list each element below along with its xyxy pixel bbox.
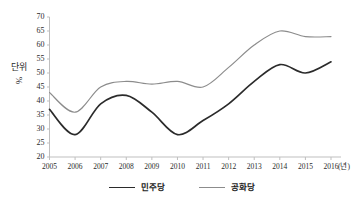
y-axis-tick-label: 70 [25, 13, 45, 21]
series-line-democratic [50, 62, 332, 135]
x-axis-tick-label: 2011 [190, 163, 216, 171]
legend-line-icon [199, 187, 225, 188]
x-axis-tick-label: 2014 [267, 163, 293, 171]
x-axis-unit-label: (년) [338, 163, 350, 171]
plot-area [0, 0, 363, 207]
y-axis-tick-label: 60 [25, 41, 45, 49]
y-axis-percent-symbol: % [14, 72, 25, 90]
y-axis-tick-label: 35 [25, 111, 45, 119]
legend-line-icon [109, 187, 135, 188]
x-axis-tick-label: 2008 [113, 163, 139, 171]
y-axis-tick-label: 50 [25, 69, 45, 77]
series-line-republican [50, 31, 332, 112]
legend-item-democratic[interactable]: 민주당 [109, 182, 165, 192]
legend-label: 민주당 [141, 182, 165, 192]
x-axis-tick-label: 2012 [216, 163, 242, 171]
data-series [50, 31, 332, 135]
legend-label: 공화당 [231, 182, 255, 192]
x-axis-tick-label: 2013 [241, 163, 267, 171]
x-axis-tick-label: 2010 [164, 163, 190, 171]
axis-ticks [47, 17, 331, 160]
x-axis-tick-label: 2007 [88, 163, 114, 171]
y-axis-tick-label: 25 [25, 139, 45, 147]
x-axis-tick-label: 2005 [37, 163, 63, 171]
y-axis-tick-label: 55 [25, 55, 45, 63]
line-chart: 단위 % 2025303540455055606570 200520062007… [0, 0, 363, 207]
y-axis-tick-label: 45 [25, 83, 45, 91]
y-axis-tick-label: 20 [25, 153, 45, 161]
x-axis-tick-label: 2009 [139, 163, 165, 171]
x-axis-tick-label: 2006 [62, 163, 88, 171]
y-axis-tick-label: 30 [25, 125, 45, 133]
legend-item-republican[interactable]: 공화당 [199, 182, 255, 192]
y-axis-tick-label: 40 [25, 97, 45, 105]
x-axis-tick-label: 2015 [292, 163, 318, 171]
chart-legend: 민주당공화당 [0, 182, 363, 192]
y-axis-tick-label: 65 [25, 27, 45, 35]
